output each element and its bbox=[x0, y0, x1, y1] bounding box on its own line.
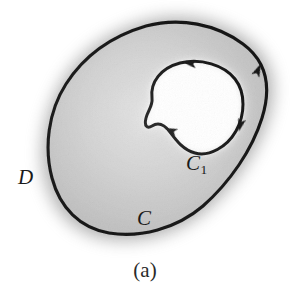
label-inner-curve-base: C bbox=[186, 151, 200, 175]
label-inner-curve-C1: C1 bbox=[186, 153, 207, 177]
figure-caption: (a) bbox=[0, 258, 290, 283]
label-region-D: D bbox=[18, 167, 33, 188]
figure-container: D C C1 (a) bbox=[0, 0, 290, 301]
figure-drawing bbox=[0, 0, 290, 301]
label-inner-curve-subscript: 1 bbox=[201, 162, 208, 177]
label-outer-curve-C: C bbox=[137, 208, 151, 229]
